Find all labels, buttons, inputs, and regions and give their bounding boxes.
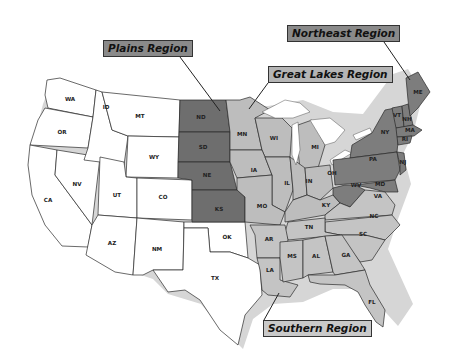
callout-plains-region: Plains Region (103, 40, 193, 57)
label-SC: SC (359, 231, 367, 237)
label-ME: ME (413, 89, 423, 95)
label-OR: OR (57, 129, 67, 135)
label-ND: ND (196, 114, 206, 120)
label-KY: KY (322, 202, 331, 208)
label-VA: VA (374, 193, 383, 199)
label-NY: NY (381, 129, 391, 135)
label-OH: OH (327, 170, 337, 176)
label-IL: IL (284, 180, 290, 186)
label-MS: MS (287, 253, 297, 259)
callout-northeast-region: Northeast Region (287, 25, 400, 42)
label-UT: UT (113, 192, 122, 198)
label-PA: PA (369, 156, 378, 162)
label-KS: KS (215, 206, 223, 212)
label-AL: AL (312, 253, 320, 259)
label-WV: WV (351, 182, 362, 188)
label-NE: NE (203, 172, 212, 178)
label-MT: MT (135, 113, 145, 119)
us-regions-map: WA OR CA ID NV MT WY UT CO AZ NM OK TX N… (0, 0, 460, 357)
label-IN: IN (306, 178, 313, 184)
label-TN: TN (305, 224, 314, 230)
label-ID: ID (103, 104, 110, 110)
label-CO: CO (159, 194, 168, 200)
label-WY: WY (149, 154, 160, 160)
label-CA: CA (44, 197, 53, 203)
label-MO: MO (257, 203, 268, 209)
label-WA: WA (65, 96, 76, 102)
label-OK: OK (222, 234, 232, 240)
label-FL: FL (368, 299, 376, 305)
callout-great-lakes-region: Great Lakes Region (268, 66, 393, 83)
label-NM: NM (152, 246, 163, 252)
state-MS[interactable] (280, 240, 303, 282)
label-NV: NV (72, 181, 82, 187)
label-AZ: AZ (108, 240, 116, 246)
label-NH: NH (402, 116, 412, 122)
label-NJ: NJ (400, 159, 407, 166)
callout-southern-region: Southern Region (263, 320, 372, 337)
label-RI: RI (402, 136, 408, 142)
label-LA: LA (266, 267, 275, 273)
label-NC: NC (370, 213, 379, 219)
label-GA: GA (342, 252, 352, 258)
label-IA: IA (251, 167, 258, 173)
label-MA: MA (405, 127, 416, 133)
label-MD: MD (375, 181, 386, 187)
label-AR: AR (265, 236, 274, 242)
label-SD: SD (199, 144, 208, 150)
map-svg: WA OR CA ID NV MT WY UT CO AZ NM OK TX N… (0, 0, 460, 357)
label-TX: TX (211, 275, 220, 281)
label-WI: WI (270, 135, 278, 141)
label-VT: VT (393, 112, 401, 118)
label-MN: MN (237, 131, 248, 137)
label-MI: MI (311, 144, 319, 150)
